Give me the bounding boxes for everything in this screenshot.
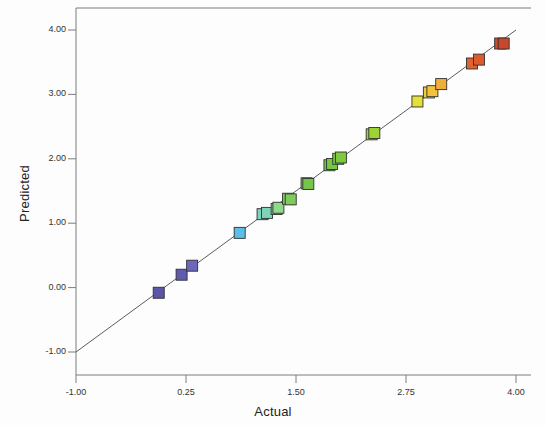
- plot-canvas: [0, 0, 546, 425]
- data-point: [187, 260, 198, 271]
- data-point: [234, 227, 245, 238]
- x-tick-label: 4.00: [491, 387, 541, 397]
- plot-frame: [76, 8, 531, 375]
- y-tick-label: -1.00: [24, 346, 66, 356]
- y-tick-label: 3.00: [24, 88, 66, 98]
- y-tick-label: 0.00: [24, 282, 66, 292]
- predicted-vs-actual-scatter-chart: Predicted Actual 4.003.002.001.000.00-1.…: [0, 0, 546, 425]
- x-tick-label: 2.75: [381, 387, 431, 397]
- data-point: [474, 54, 485, 65]
- x-tick-label: -1.00: [51, 387, 101, 397]
- axis-ticks: [68, 30, 516, 383]
- x-tick-label: 1.50: [271, 387, 321, 397]
- y-axis-title: Predicted: [17, 134, 32, 254]
- data-point: [303, 178, 314, 189]
- data-point: [412, 96, 423, 107]
- identity-line: [76, 30, 516, 352]
- x-axis-title: Actual: [0, 404, 546, 419]
- data-points: [153, 38, 509, 298]
- data-point: [335, 152, 346, 163]
- y-tick-label: 1.00: [24, 217, 66, 227]
- data-point: [498, 38, 509, 49]
- x-tick-label: 0.25: [161, 387, 211, 397]
- data-point: [285, 194, 296, 205]
- data-point: [153, 287, 164, 298]
- y-tick-label: 4.00: [24, 24, 66, 34]
- y-tick-label: 2.00: [24, 153, 66, 163]
- data-point: [176, 269, 187, 280]
- data-point: [369, 128, 380, 139]
- data-point: [436, 79, 447, 90]
